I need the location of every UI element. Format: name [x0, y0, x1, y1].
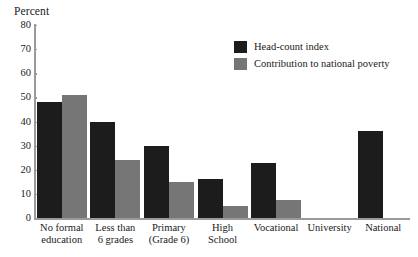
x-tick-label-line: High [196, 222, 250, 234]
y-tick-mark-40 [34, 122, 37, 123]
x-tick-label-line: (Grade 6) [142, 234, 196, 246]
bar-group [144, 25, 194, 218]
bar [37, 102, 62, 218]
bar-chart: Percent 01020304050607080 No formaleduca… [0, 0, 418, 257]
legend-label-series-0: Head-count index [254, 41, 329, 52]
legend-item-head-count-index: Head-count index [234, 40, 390, 53]
x-tick-label: Primary(Grade 6) [142, 222, 196, 245]
bar-group [90, 25, 140, 218]
y-tick-mark-10 [34, 194, 37, 195]
x-tick-label-line: Less than [89, 222, 143, 234]
y-tick-mark-30 [34, 146, 37, 147]
legend-swatch-series-1 [234, 58, 247, 70]
bar [251, 163, 276, 218]
x-tick-label-line: Primary [142, 222, 196, 234]
legend-swatch-series-0 [234, 41, 247, 53]
bar [276, 200, 301, 218]
legend-item-contribution-to-national-poverty: Contribution to national poverty [234, 57, 390, 70]
y-tick-label-0: 0 [26, 213, 31, 223]
y-tick-mark-60 [34, 73, 37, 74]
y-tick-label-30: 30 [21, 141, 32, 151]
x-tick-label: No formaleducation [35, 222, 89, 245]
x-tick-label-line: School [196, 234, 250, 246]
y-tick-mark-80 [34, 25, 37, 26]
y-tick-mark-0 [34, 218, 37, 219]
x-tick-label: National [356, 222, 410, 234]
y-tick-label-20: 20 [21, 165, 32, 175]
x-tick-label-line: education [35, 234, 89, 246]
x-tick-label: Less than6 grades [89, 222, 143, 245]
y-tick-mark-20 [34, 170, 37, 171]
x-tick-label-line: University [303, 222, 357, 234]
legend-label-series-1: Contribution to national poverty [254, 58, 390, 69]
x-tick-label-line: National [356, 222, 410, 234]
x-tick-label: University [303, 222, 357, 234]
x-tick-label-line: 6 grades [89, 234, 143, 246]
y-tick-label-80: 80 [21, 20, 32, 30]
y-tick-mark-50 [34, 97, 37, 98]
y-tick-label-40: 40 [21, 117, 32, 127]
bar [115, 160, 140, 218]
y-tick-label-60: 60 [21, 68, 32, 78]
bar [198, 179, 223, 218]
x-axis-line [34, 218, 410, 220]
bar [223, 206, 248, 218]
bar [90, 122, 115, 219]
y-tick-label-50: 50 [21, 92, 32, 102]
y-axis-tick-labels: 01020304050607080 [0, 0, 31, 257]
bar [169, 182, 194, 218]
x-tick-label-line: Vocational [249, 222, 303, 234]
y-tick-label-10: 10 [21, 189, 32, 199]
y-tick-mark-70 [34, 49, 37, 50]
bar-group [37, 25, 87, 218]
x-tick-label: Vocational [249, 222, 303, 234]
bar [62, 95, 87, 218]
x-tick-label-line: No formal [35, 222, 89, 234]
y-tick-label-70: 70 [21, 44, 32, 54]
x-tick-label: HighSchool [196, 222, 250, 245]
legend: Head-count index Contribution to nationa… [234, 40, 390, 74]
bar [358, 131, 383, 218]
bar [144, 146, 169, 218]
